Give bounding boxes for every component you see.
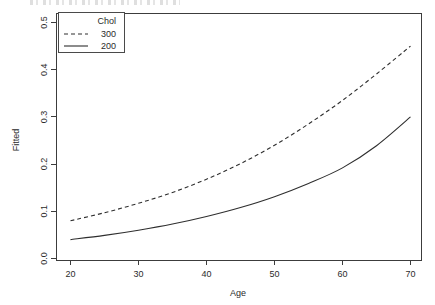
y-tick-label: 0.2 [39, 158, 49, 171]
y-axis-ticks [51, 23, 56, 259]
y-tick-label: 0.3 [39, 111, 49, 124]
x-tick-label: 20 [65, 269, 75, 279]
x-tick-label: 60 [337, 269, 347, 279]
fitted-vs-age-chart: 0.0 0.1 0.2 0.3 0.4 0.5 Fitted 20 30 40 … [0, 0, 435, 305]
x-axis-title: Age [230, 288, 246, 298]
x-tick-label: 50 [269, 269, 279, 279]
series-line-chol-300 [71, 46, 411, 221]
y-tick-label: 0.5 [39, 16, 49, 29]
y-axis-tick-labels: 0.0 0.1 0.2 0.3 0.4 0.5 [39, 16, 49, 265]
legend-title: Chol [97, 16, 116, 26]
y-tick-label: 0.0 [39, 252, 49, 265]
y-tick-label: 0.1 [39, 205, 49, 218]
x-axis-ticks [71, 260, 411, 265]
chart-screenshot: 0.0 0.1 0.2 0.3 0.4 0.5 Fitted 20 30 40 … [0, 0, 435, 305]
y-tick-label: 0.4 [39, 63, 49, 76]
legend-label-300: 300 [101, 29, 116, 39]
x-axis-tick-labels: 20 30 40 50 60 70 [65, 269, 415, 279]
x-tick-label: 70 [405, 269, 415, 279]
legend-label-200: 200 [101, 41, 116, 51]
x-tick-label: 40 [201, 269, 211, 279]
series-line-chol-200 [71, 117, 411, 240]
legend: Chol 300 200 [59, 13, 125, 53]
y-axis-title: Fitted [11, 129, 21, 152]
x-tick-label: 30 [133, 269, 143, 279]
